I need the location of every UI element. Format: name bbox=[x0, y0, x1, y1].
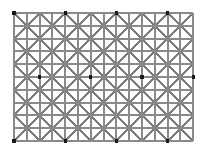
illusion-canvas bbox=[0, 0, 205, 159]
illusion-dot bbox=[12, 11, 15, 14]
illusion-dot bbox=[140, 75, 143, 78]
illusion-dot bbox=[64, 11, 67, 14]
illusion-dot bbox=[115, 139, 118, 142]
illusion-dot bbox=[38, 75, 41, 78]
illusion-dot bbox=[166, 11, 169, 14]
illusion-dot bbox=[12, 139, 15, 142]
illusion-dot bbox=[64, 139, 67, 142]
illusion-dot bbox=[115, 11, 118, 14]
illusion-dot bbox=[89, 75, 92, 78]
illusion-figure: Gray grid of horizontal, vertical and di… bbox=[0, 0, 205, 159]
illusion-dot bbox=[166, 139, 169, 142]
illusion-dot bbox=[192, 75, 195, 78]
